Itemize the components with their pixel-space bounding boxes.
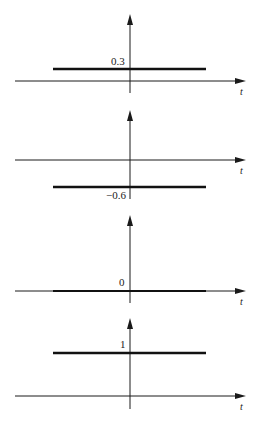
vertical-axis-arrow-icon	[127, 110, 133, 121]
t-axis-label: t	[240, 86, 243, 97]
value-label: 1	[120, 338, 126, 350]
time-axis-arrow-icon	[235, 393, 246, 399]
vertical-axis-arrow-icon	[127, 318, 133, 329]
panel-3: 0 t	[15, 215, 246, 307]
t-axis-label: t	[240, 401, 243, 412]
time-axis-arrow-icon	[235, 78, 246, 84]
constant-signals-diagram: 0.3 t −0.6 t 0 t 1 t	[0, 0, 259, 427]
vertical-axis-arrow-icon	[127, 14, 133, 25]
panel-2: −0.6 t	[15, 110, 246, 201]
t-axis-label: t	[240, 165, 243, 176]
t-axis-label: t	[240, 296, 243, 307]
time-axis-arrow-icon	[235, 288, 246, 294]
value-label: 0.3	[111, 55, 125, 67]
value-label: −0.6	[106, 189, 126, 201]
panel-4: 1 t	[15, 318, 246, 412]
value-label: 0	[119, 276, 125, 288]
vertical-axis-arrow-icon	[127, 215, 133, 226]
panel-1: 0.3 t	[15, 14, 246, 97]
time-axis-arrow-icon	[235, 157, 246, 163]
